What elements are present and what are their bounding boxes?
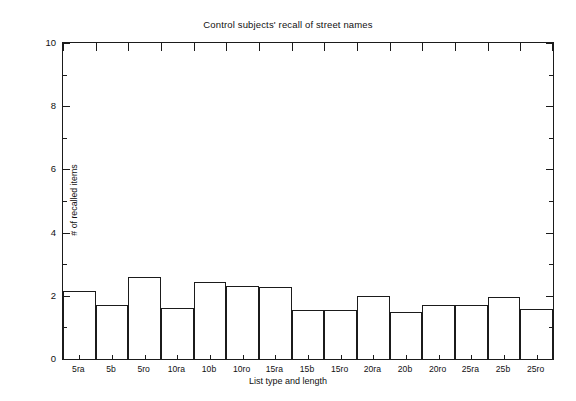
x-tick-label: 25ro — [527, 364, 544, 374]
x-tick-bottom — [128, 351, 129, 359]
x-tick-label: 25ra — [462, 364, 479, 374]
y-tick-minor-right — [549, 327, 553, 328]
x-tick-bottom — [324, 351, 325, 359]
bar — [226, 286, 259, 359]
figure: Control subjects' recall of street names… — [0, 0, 576, 401]
x-tick-label: 15ro — [331, 364, 348, 374]
x-tick-top — [292, 43, 293, 51]
x-tick-top — [422, 43, 423, 51]
x-tick-bottom — [226, 351, 227, 359]
x-tick-center — [210, 355, 211, 360]
y-tick-right — [546, 233, 553, 234]
x-tick-center — [439, 355, 440, 360]
x-tick-bottom — [259, 351, 260, 359]
x-tick-center — [504, 355, 505, 360]
x-tick-center — [177, 355, 178, 360]
x-tick-center — [471, 355, 472, 360]
y-tick — [63, 43, 70, 44]
bar — [422, 305, 455, 359]
x-tick-bottom — [161, 351, 162, 359]
x-tick-bottom — [422, 351, 423, 359]
x-tick-label: 5ra — [72, 364, 84, 374]
y-tick-label: 10 — [10, 37, 56, 48]
y-tick-right — [546, 169, 553, 170]
x-tick-center — [79, 355, 80, 360]
y-tick-minor — [63, 138, 67, 139]
x-tick-top — [259, 43, 260, 51]
y-tick-right — [546, 296, 553, 297]
x-tick-top — [488, 43, 489, 51]
y-tick-right — [546, 106, 553, 107]
y-tick-minor — [63, 201, 67, 202]
x-tick-bottom — [96, 351, 97, 359]
x-tick-bottom — [455, 351, 456, 359]
x-tick-bottom — [292, 351, 293, 359]
x-tick-center — [537, 355, 538, 360]
x-tick-top — [194, 43, 195, 51]
bar — [63, 291, 96, 359]
x-tick-top — [520, 43, 521, 51]
x-tick-top — [324, 43, 325, 51]
y-tick-label: 6 — [10, 163, 56, 174]
bar — [194, 282, 227, 359]
x-tick-label: 20ro — [429, 364, 446, 374]
y-tick — [63, 359, 70, 360]
y-tick-minor-right — [549, 201, 553, 202]
x-tick-label: 15b — [300, 364, 314, 374]
x-tick-bottom — [488, 351, 489, 359]
y-axis-title: # of recalled items — [69, 100, 79, 300]
y-tick-label: 4 — [10, 226, 56, 237]
x-tick-label: 10b — [202, 364, 216, 374]
x-tick-top — [455, 43, 456, 51]
y-tick-minor-right — [549, 138, 553, 139]
x-tick-top — [390, 43, 391, 51]
x-tick-top — [128, 43, 129, 51]
bar — [324, 310, 357, 359]
plot-area: # of recalled items — [62, 42, 554, 360]
x-tick-top — [226, 43, 227, 51]
x-tick-center — [341, 355, 342, 360]
plot-inner — [63, 43, 553, 359]
y-tick-minor-right — [549, 264, 553, 265]
x-axis-title: List type and length — [0, 376, 576, 386]
x-tick-label: 5b — [106, 364, 116, 374]
y-tick-minor — [63, 75, 67, 76]
bar — [96, 305, 129, 359]
x-tick-label: 15ra — [266, 364, 283, 374]
x-tick-bottom — [357, 351, 358, 359]
y-tick-label: 2 — [10, 289, 56, 300]
y-tick-label: 8 — [10, 100, 56, 111]
x-tick-top — [357, 43, 358, 51]
y-tick-minor-right — [549, 75, 553, 76]
x-tick-label: 20ra — [364, 364, 381, 374]
chart-title: Control subjects' recall of street names — [0, 19, 576, 30]
bar — [128, 277, 161, 359]
x-tick-label: 5ro — [137, 364, 149, 374]
x-tick-center — [112, 355, 113, 360]
bar — [259, 287, 292, 359]
x-tick-label: 10ro — [233, 364, 250, 374]
x-tick-top — [96, 43, 97, 51]
x-tick-top — [63, 43, 64, 51]
bar — [390, 312, 423, 359]
x-tick-label: 20b — [398, 364, 412, 374]
bar — [292, 310, 325, 359]
x-tick-label: 25b — [496, 364, 510, 374]
x-tick-top — [552, 43, 553, 51]
x-tick-center — [373, 355, 374, 360]
x-tick-bottom — [520, 351, 521, 359]
x-tick-top — [161, 43, 162, 51]
bar — [357, 296, 390, 359]
x-tick-center — [406, 355, 407, 360]
bar — [488, 297, 521, 359]
y-tick-label: 0 — [10, 353, 56, 364]
y-tick-right — [546, 359, 553, 360]
bar — [455, 305, 488, 359]
x-tick-center — [275, 355, 276, 360]
bar — [520, 309, 553, 359]
x-tick-bottom — [390, 351, 391, 359]
bar — [161, 308, 194, 359]
x-tick-bottom — [194, 351, 195, 359]
y-tick-minor — [63, 327, 67, 328]
x-tick-center — [308, 355, 309, 360]
